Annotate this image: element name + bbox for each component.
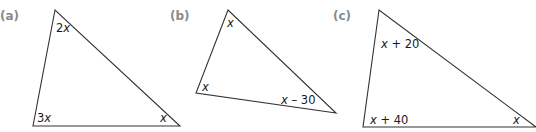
triangle-b: (b) x x x – 30 [170,9,336,113]
angle-a-left: 3x [37,111,51,125]
angle-c-right: x [512,113,520,127]
part-label-b: (b) [170,9,190,23]
angle-b-top: x [226,16,234,30]
angle-a-right: x [159,111,167,125]
triangles-diagram: (a) 2x 3x x (b) x x x – 30 (c) x + 20 x … [0,0,536,132]
angle-b-right: x – 30 [280,93,316,107]
angle-b-left: x [201,80,209,94]
part-label-a: (a) [0,9,19,23]
triangle-c: (c) x + 20 x + 40 x [333,9,536,127]
triangle-a: (a) 2x 3x x [0,9,180,126]
angle-c-left: x + 40 [369,113,408,127]
angle-c-top: x + 20 [380,37,419,51]
part-label-c: (c) [333,9,351,23]
triangle-c-shape [363,10,536,127]
angle-a-top: 2x [56,21,70,35]
